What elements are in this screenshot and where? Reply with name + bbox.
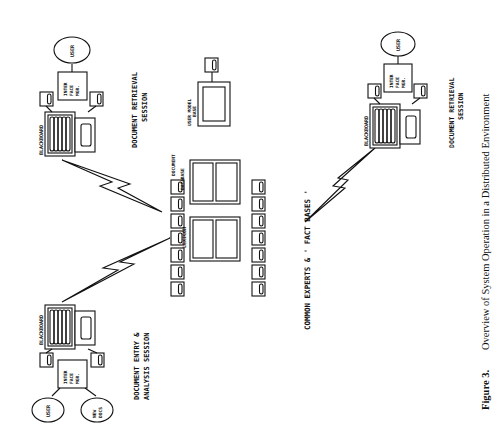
document-entry-session: BLACKBOARD INTER FACE MGR. USER NEW DOCS… [32, 305, 151, 422]
entry-session-title-2: ANALYSIS SESSION [143, 333, 151, 400]
retrieval-left-title-1: DOCUMENT RETRIEVAL [131, 72, 139, 148]
entry-new-docs-label-2: DOCS [98, 407, 103, 418]
retrieval-left-link-bolt [62, 160, 162, 212]
document-database [190, 160, 240, 204]
retrieval-left-title-2: SESSION [141, 92, 149, 122]
entry-session-title-1: DOCUMENT ENTRY & [133, 332, 141, 400]
retrieval-right-title-2: SESSION [457, 93, 465, 120]
retrieval-left-interface-text-2: FACE [69, 85, 74, 96]
retrieval-left-interface-text-3: MGR. [75, 85, 80, 96]
retrieval-right-link-bolt [305, 148, 375, 222]
retrieval-right-blackboard-label: BLACKBOARD [363, 116, 369, 146]
entry-interface-text-1: INTER [63, 370, 68, 384]
lexicon [190, 217, 240, 261]
expert-units-bottom [252, 180, 265, 296]
common-experts-title: COMMON EXPERTS & ' FACT BASES ' [303, 190, 312, 330]
figure-caption: Overview of System Operation in a Distri… [480, 94, 491, 350]
retrieval-left-blackboard-label: BLACKBOARD [38, 125, 44, 155]
entry-new-docs-node [81, 398, 113, 422]
retrieval-right-interface-text-3: MGR. [401, 77, 406, 88]
entry-link-bolt [62, 238, 170, 302]
entry-interface-text-2: FACE [69, 373, 74, 384]
document-retrieval-session-left: BLACKBOARD INTER FACE MGR. USER DOCUMENT… [38, 37, 149, 156]
entry-blackboard-workstation [45, 305, 95, 349]
user-model-disk [205, 58, 218, 72]
document-database-label-1: DOCUMENT [171, 154, 176, 176]
document-database-label-2: DATABASE [180, 168, 185, 190]
user-model-label-2: BASE [192, 106, 197, 117]
entry-interface-text-3: MGR. [75, 373, 80, 384]
document-retrieval-session-right: BLACKBOARD INTER FACE MGR. USER DOCUMENT… [363, 32, 465, 148]
entry-user-label: USER [45, 404, 51, 417]
entry-new-docs-label-1: NEW [92, 410, 97, 418]
retrieval-right-title-1: DOCUMENT RETRIEVAL [448, 77, 456, 148]
retrieval-right-user-label: USER [395, 38, 401, 51]
retrieval-left-user-label: USER [69, 44, 75, 57]
retrieval-left-interface-text-1: INTER [63, 82, 68, 96]
retrieval-right-interface-text-2: FACE [395, 77, 400, 88]
system-overview-diagram: BLACKBOARD INTER FACE MGR. USER NEW DOCS… [0, 0, 498, 433]
figure-number: Figure 3. [480, 370, 491, 410]
lexicon-label: LEXICON [181, 227, 187, 248]
retrieval-right-interface-text-1: INTER [389, 74, 394, 88]
common-experts-fact-bases: USER MODEL BASE DOCUMENT [171, 58, 265, 296]
entry-blackboard-label: BLACKBOARD [38, 315, 44, 345]
